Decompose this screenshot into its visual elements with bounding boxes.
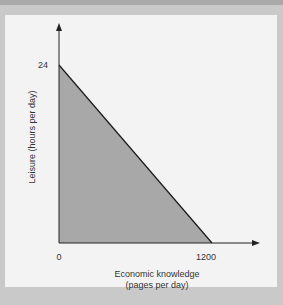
x-axis-label-line2: (pages per day) [125,280,188,290]
chart: 24 0 1200 Economic knowledge (pages per … [0,0,283,305]
x-tick-0: 0 [56,252,61,262]
y-tick-24: 24 [38,60,48,70]
x-axis-label-line1: Economic knowledge [114,269,199,279]
x-tick-1200: 1200 [196,252,216,262]
y-axis-label: Leisure (hours per day) [27,90,37,183]
